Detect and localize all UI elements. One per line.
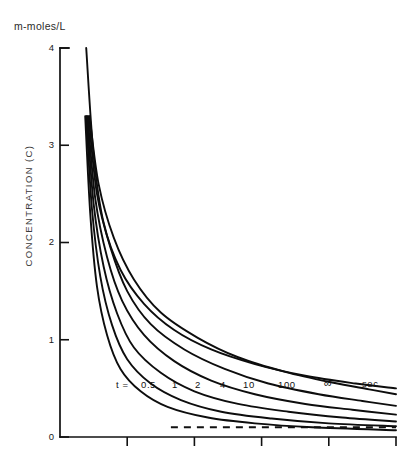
curve-t-4 bbox=[88, 116, 396, 415]
concentration-decay-figure: m-moles/L CONCENTRATION (C) 4 3 2 1 0 t … bbox=[0, 0, 400, 450]
y-tick-label-0: 0 bbox=[38, 431, 54, 442]
sec-unit-label: sec bbox=[362, 378, 379, 389]
curve-t-∞ bbox=[86, 48, 396, 388]
y-tick-label-4: 4 bbox=[38, 42, 54, 53]
y-tick-marks bbox=[60, 48, 69, 437]
decay-curves bbox=[85, 48, 396, 430]
y-unit-label: m-moles/L bbox=[14, 20, 66, 32]
curve-t-10 bbox=[89, 116, 396, 406]
curve-t-100 bbox=[90, 116, 396, 394]
curve-label-0point5: 0.5 bbox=[141, 379, 156, 390]
y-tick-label-2: 2 bbox=[38, 236, 54, 247]
t-equals-label: t = bbox=[116, 379, 129, 390]
curve-label-1: 1 bbox=[172, 379, 178, 390]
curve-label-infinity: ∞ bbox=[324, 377, 332, 389]
x-tick-marks bbox=[127, 437, 396, 446]
curve-label-4: 4 bbox=[220, 379, 226, 390]
y-tick-label-3: 3 bbox=[38, 139, 54, 150]
y-tick-label-1: 1 bbox=[38, 334, 54, 345]
curve-label-2: 2 bbox=[195, 379, 201, 390]
y-axis-title: CONCENTRATION (C) bbox=[23, 116, 34, 296]
curve-label-100: 100 bbox=[278, 379, 296, 390]
curve-label-10: 10 bbox=[243, 379, 255, 390]
curve-t-1 bbox=[86, 116, 396, 426]
